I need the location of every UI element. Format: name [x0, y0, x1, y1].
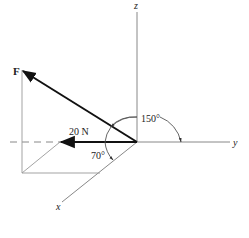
y-axis-label: y — [232, 137, 238, 148]
component-20n-label: 20 N — [69, 126, 89, 137]
x-axis-label: x — [55, 201, 61, 212]
force-f-label: F — [13, 65, 20, 77]
angle-70-arc — [105, 127, 113, 160]
angle-150-arc-start — [111, 117, 137, 127]
force-diagram: z y x F 20 N 150° 70° — [0, 0, 249, 238]
angle-70-label: 70° — [91, 150, 105, 161]
angle-150-label: 150° — [141, 113, 160, 124]
projection-diagonal — [22, 142, 60, 173]
z-axis-label: z — [133, 0, 138, 11]
